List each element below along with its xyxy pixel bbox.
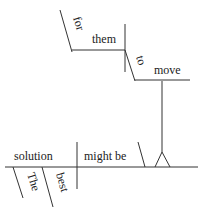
word-verb: might be — [84, 149, 126, 163]
pedestal-left-leg — [155, 152, 162, 167]
preposition-slant — [60, 10, 72, 52]
word-subject: solution — [14, 149, 53, 163]
infinitive-slant — [125, 50, 135, 81]
word-infinitive-verb: move — [154, 63, 181, 77]
word-adjective: best — [53, 171, 72, 194]
word-preposition: for — [70, 15, 87, 32]
word-infinitive-marker: to — [133, 54, 149, 67]
pedestal-right-leg — [162, 152, 170, 167]
article-slant — [13, 167, 23, 198]
word-article: The — [24, 171, 43, 193]
word-object: them — [92, 32, 117, 46]
sentence-diagram: solution might be The best for them to m… — [0, 0, 211, 213]
complement-slash — [138, 142, 145, 167]
